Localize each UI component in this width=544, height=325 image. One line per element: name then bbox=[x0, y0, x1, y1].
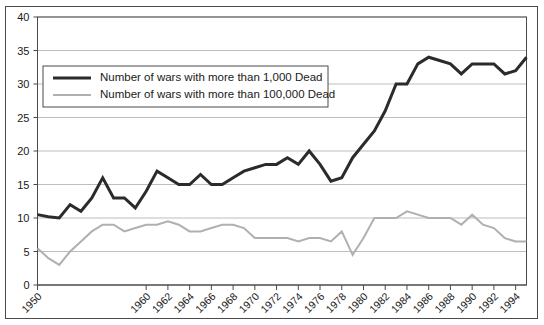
y-axis-tick-labels: 0510152025303540 bbox=[17, 11, 29, 291]
x-tick-label: 1986 bbox=[410, 290, 435, 315]
y-tick-label: 25 bbox=[17, 112, 29, 124]
y-tick-label: 35 bbox=[17, 45, 29, 57]
chart-legend: Number of wars with more than 1,000 Dead… bbox=[43, 66, 335, 107]
legend-label-1: Number of wars with more than 100,000 De… bbox=[100, 88, 335, 100]
y-tick-label: 30 bbox=[17, 78, 29, 90]
x-tick-label: 1980 bbox=[345, 290, 370, 315]
y-tick-label: 15 bbox=[17, 179, 29, 191]
x-tick-label: 1976 bbox=[301, 290, 326, 315]
x-axis-ticks bbox=[38, 285, 516, 290]
x-tick-label: 1966 bbox=[193, 290, 218, 315]
x-tick-label: 1950 bbox=[19, 290, 44, 315]
x-tick-label: 1962 bbox=[149, 290, 174, 315]
gridlines bbox=[38, 17, 527, 285]
y-tick-label: 20 bbox=[17, 145, 29, 157]
y-tick-label: 10 bbox=[17, 212, 29, 224]
x-tick-label: 1982 bbox=[367, 290, 392, 315]
y-tick-label: 0 bbox=[23, 279, 29, 291]
x-tick-label: 1974 bbox=[280, 290, 305, 315]
x-tick-label: 1960 bbox=[128, 290, 153, 315]
legend-label-0: Number of wars with more than 1,000 Dead bbox=[100, 71, 322, 83]
series-line-1 bbox=[38, 211, 527, 265]
x-tick-label: 1964 bbox=[171, 290, 196, 315]
x-tick-label: 1968 bbox=[215, 290, 240, 315]
x-tick-label: 1970 bbox=[236, 290, 261, 315]
x-tick-label: 1990 bbox=[454, 290, 479, 315]
x-tick-label: 1992 bbox=[475, 290, 500, 315]
y-tick-label: 40 bbox=[17, 11, 29, 23]
chart-figure: 0510152025303540 19501960196219641966196… bbox=[0, 0, 544, 325]
x-axis-tick-labels: 1950196019621964196619681970197219741976… bbox=[19, 290, 522, 315]
line-chart: 0510152025303540 19501960196219641966196… bbox=[0, 0, 544, 325]
x-tick-label: 1994 bbox=[497, 290, 522, 315]
x-tick-label: 1984 bbox=[388, 290, 413, 315]
x-tick-label: 1972 bbox=[258, 290, 283, 315]
y-tick-label: 5 bbox=[23, 246, 29, 258]
y-axis-ticks bbox=[34, 17, 38, 285]
x-tick-label: 1978 bbox=[323, 290, 348, 315]
x-tick-label: 1988 bbox=[432, 290, 457, 315]
